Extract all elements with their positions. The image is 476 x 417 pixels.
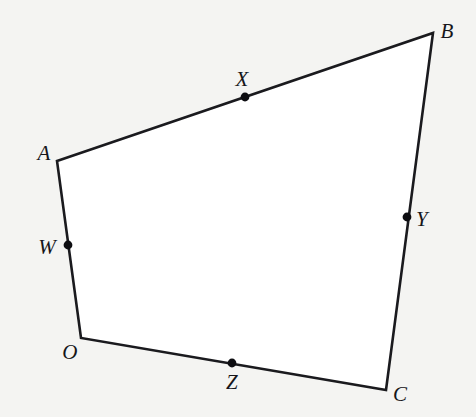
vertex-label-o: O	[62, 342, 77, 363]
point-dot-x	[241, 93, 250, 102]
point-dot-z	[228, 359, 237, 368]
point-label-z: Z	[226, 372, 238, 393]
point-dot-y	[403, 213, 412, 222]
point-label-y: Y	[416, 209, 428, 230]
point-label-x: X	[235, 69, 248, 90]
vertex-label-b: B	[440, 21, 453, 42]
vertex-label-a: A	[37, 143, 50, 164]
vertex-label-c: C	[393, 384, 407, 405]
point-label-w: W	[38, 237, 56, 258]
point-dot-w	[64, 241, 73, 250]
diagram-page: ABCOWXYZ	[0, 0, 476, 417]
